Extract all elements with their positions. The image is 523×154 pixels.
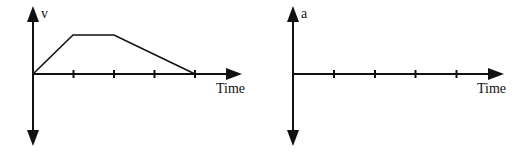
- v-axis-up-arrow-icon: [27, 6, 39, 22]
- velocity-curve: [33, 35, 195, 74]
- a-axis-label: a: [301, 6, 308, 21]
- time-axis-arrow-icon: [226, 68, 242, 80]
- kinematics-diagram: v Time a Time: [0, 0, 523, 154]
- time-axis-arrow-icon: [488, 68, 504, 80]
- velocity-time-graph: v Time: [27, 6, 245, 146]
- a-axis-down-arrow-icon: [287, 130, 299, 146]
- a-axis-up-arrow-icon: [287, 6, 299, 22]
- v-axis-label: v: [41, 6, 48, 21]
- time-axis-label: Time: [216, 81, 245, 96]
- time-axis-label: Time: [477, 81, 506, 96]
- acceleration-time-graph: a Time: [287, 6, 506, 146]
- v-axis-down-arrow-icon: [27, 130, 39, 146]
